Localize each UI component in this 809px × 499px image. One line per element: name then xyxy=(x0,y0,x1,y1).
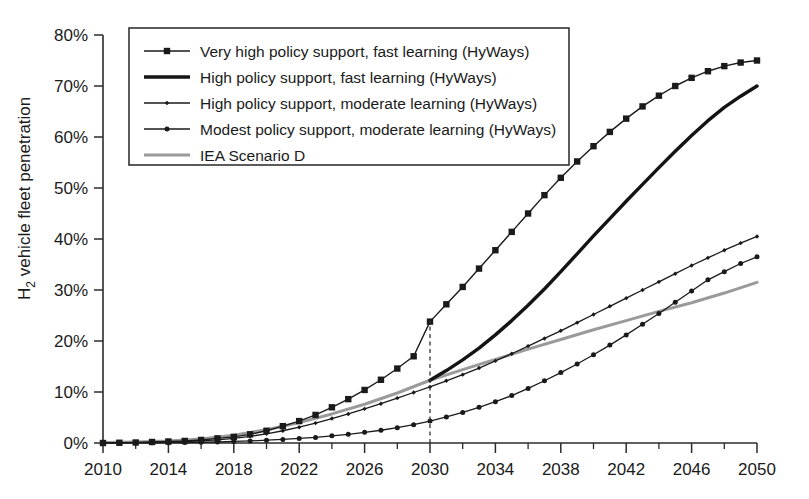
y-axis-title-main-b: vehicle fleet penetration xyxy=(15,97,34,281)
y-tick-label: 30% xyxy=(54,281,88,300)
data-point-marker-square xyxy=(656,92,662,98)
data-point-marker-circle xyxy=(493,399,498,404)
y-tick-label: 0% xyxy=(63,434,88,453)
data-point-marker-square xyxy=(737,59,743,65)
x-tick-label: 2014 xyxy=(149,460,187,479)
data-point-marker-square xyxy=(410,353,416,359)
data-point-marker-diamond xyxy=(559,329,563,333)
data-point-marker-square xyxy=(312,412,318,418)
data-point-marker-circle xyxy=(640,322,645,327)
data-point-marker-circle xyxy=(705,277,710,282)
data-point-marker-circle xyxy=(526,386,531,391)
data-point-marker-square xyxy=(280,423,286,429)
data-point-marker-square xyxy=(116,440,122,446)
data-point-marker-diamond xyxy=(706,256,710,260)
data-point-marker-square xyxy=(460,284,466,290)
data-point-marker-circle xyxy=(362,430,367,435)
x-tick-label: 2046 xyxy=(673,460,711,479)
x-tick-label: 2010 xyxy=(84,460,122,479)
data-point-marker-diamond xyxy=(608,304,612,308)
svg-text:H2 vehicle fleet penetration: H2 vehicle fleet penetration xyxy=(15,97,38,300)
data-point-marker-square xyxy=(361,387,367,393)
data-point-marker-circle xyxy=(329,433,334,438)
legend: Very high policy support, fast learning … xyxy=(129,28,569,165)
legend-item-4[interactable]: Modest policy support, moderate learning… xyxy=(144,121,556,138)
y-tick-label: 70% xyxy=(54,77,88,96)
data-point-marker-diamond xyxy=(297,425,301,429)
data-point-marker-square xyxy=(705,68,711,74)
data-point-marker-circle xyxy=(509,393,514,398)
data-point-marker-circle xyxy=(738,261,743,266)
data-point-marker-square xyxy=(345,396,351,402)
data-point-marker-square xyxy=(149,439,155,445)
data-point-marker-diamond xyxy=(330,416,334,420)
data-point-marker-square xyxy=(672,83,678,89)
data-point-marker-square xyxy=(476,265,482,271)
data-point-marker-square xyxy=(721,63,727,69)
data-point-marker-square xyxy=(525,210,531,216)
data-point-marker-square xyxy=(574,158,580,164)
data-point-marker-square xyxy=(590,143,596,149)
data-point-marker-diamond xyxy=(722,248,726,252)
x-tick-label: 2018 xyxy=(215,460,253,479)
x-tick-label: 2042 xyxy=(607,460,645,479)
data-point-marker-diamond xyxy=(411,390,415,394)
series-3 xyxy=(101,234,759,445)
data-point-marker-square xyxy=(247,431,253,437)
x-axis-ticks: 2010201420182022202620302034203820422046… xyxy=(84,443,776,479)
data-point-marker-square xyxy=(443,301,449,307)
data-point-marker-diamond xyxy=(444,379,448,383)
legend-item-3[interactable]: High policy support, moderate learning (… xyxy=(144,95,537,112)
data-point-marker-circle xyxy=(542,378,547,383)
y-tick-label: 10% xyxy=(54,383,88,402)
data-point-marker-square xyxy=(133,439,139,445)
y-axis-title-main-a: H xyxy=(15,288,34,300)
legend-item-label: Modest policy support, moderate learning… xyxy=(200,121,556,138)
data-point-marker-circle xyxy=(264,438,269,443)
data-point-marker-square xyxy=(509,229,515,235)
data-point-marker-square xyxy=(754,57,760,63)
data-point-marker-diamond xyxy=(461,372,465,376)
data-point-marker-square xyxy=(688,75,694,81)
legend-item-label: High policy support, moderate learning (… xyxy=(200,95,537,112)
y-tick-label: 50% xyxy=(54,179,88,198)
data-point-marker-circle xyxy=(297,436,302,441)
y-axis-title: H2 vehicle fleet penetration xyxy=(15,97,38,300)
data-point-marker-square xyxy=(296,418,302,424)
data-point-marker-square xyxy=(492,247,498,253)
data-point-marker-circle xyxy=(248,438,253,443)
data-point-marker-diamond xyxy=(689,263,693,267)
data-point-marker-square xyxy=(378,377,384,383)
data-point-marker-circle xyxy=(165,127,170,132)
legend-item-1[interactable]: Very high policy support, fast learning … xyxy=(144,43,529,60)
data-point-marker-circle xyxy=(689,289,694,294)
x-tick-label: 2038 xyxy=(542,460,580,479)
data-point-marker-diamond xyxy=(657,280,661,284)
chart-figure: H2 vehicle fleet penetration 0%10%20%30%… xyxy=(0,0,809,499)
legend-item-label: Very high policy support, fast learning … xyxy=(200,43,529,60)
x-tick-label: 2050 xyxy=(738,460,776,479)
legend-item-label: IEA Scenario D xyxy=(200,147,305,164)
data-point-marker-square xyxy=(558,175,564,181)
data-point-marker-square xyxy=(329,404,335,410)
x-tick-label: 2022 xyxy=(280,460,318,479)
data-point-marker-circle xyxy=(673,300,678,305)
data-point-marker-diamond xyxy=(313,421,317,425)
data-point-marker-circle xyxy=(444,414,449,419)
data-point-marker-circle xyxy=(346,432,351,437)
legend-item-label: High policy support, fast learning (HyWa… xyxy=(200,69,497,86)
data-point-marker-square xyxy=(639,103,645,109)
data-point-marker-diamond xyxy=(362,407,366,411)
y-tick-label: 40% xyxy=(54,230,88,249)
data-point-marker-square xyxy=(607,129,613,135)
y-tick-label: 80% xyxy=(54,26,88,45)
data-point-marker-square xyxy=(214,435,220,441)
chart-svg: H2 vehicle fleet penetration 0%10%20%30%… xyxy=(0,0,809,499)
data-point-marker-square xyxy=(182,438,188,444)
data-point-marker-circle xyxy=(755,254,760,259)
data-point-marker-circle xyxy=(313,435,318,440)
x-tick-label: 2026 xyxy=(346,460,384,479)
data-point-marker-square xyxy=(165,438,171,444)
data-point-marker-circle xyxy=(575,361,580,366)
data-point-marker-square xyxy=(394,365,400,371)
